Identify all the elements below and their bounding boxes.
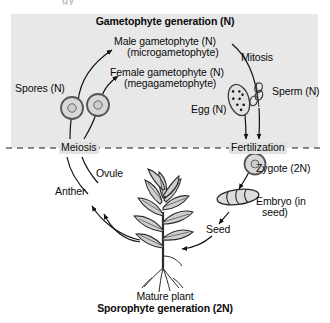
sporophyte-generation-title: Sporophyte generation (2N)	[0, 303, 330, 315]
spore-cell-right	[87, 94, 109, 116]
label-ovule: Ovule	[96, 168, 123, 180]
label-zygote: Zygote (2N)	[256, 163, 310, 175]
label-female-gametophyte-line2: (megagametophyte)	[124, 78, 216, 90]
label-anther: Anther	[55, 186, 85, 198]
spore-cell-left	[61, 97, 83, 119]
label-spores: Spores (N)	[15, 83, 65, 95]
stage-label-meiosis: Meiosis	[59, 142, 99, 154]
label-male-gametophyte-line2: (microgametophyte)	[127, 47, 219, 59]
mature-plant	[134, 169, 193, 292]
label-sperm: Sperm (N)	[272, 86, 320, 98]
stage-label-fertilization: Fertilization	[229, 142, 287, 154]
label-seed: Seed	[206, 224, 230, 236]
arrow-plant-to-ovule	[104, 214, 140, 242]
label-embryo-line2: seed)	[262, 207, 288, 219]
arrow-zygote-to-embryo	[239, 172, 249, 189]
label-mature-plant: Mature plant	[0, 291, 330, 303]
label-mitosis: Mitosis	[241, 52, 273, 64]
label-egg: Egg (N)	[191, 104, 226, 116]
arrow-plant-to-anther	[92, 206, 140, 240]
seed-embryo	[216, 187, 260, 207]
gametophyte-generation-title: Gametophyte generation (N)	[0, 16, 330, 28]
arrow-seed-to-plant	[182, 236, 212, 249]
